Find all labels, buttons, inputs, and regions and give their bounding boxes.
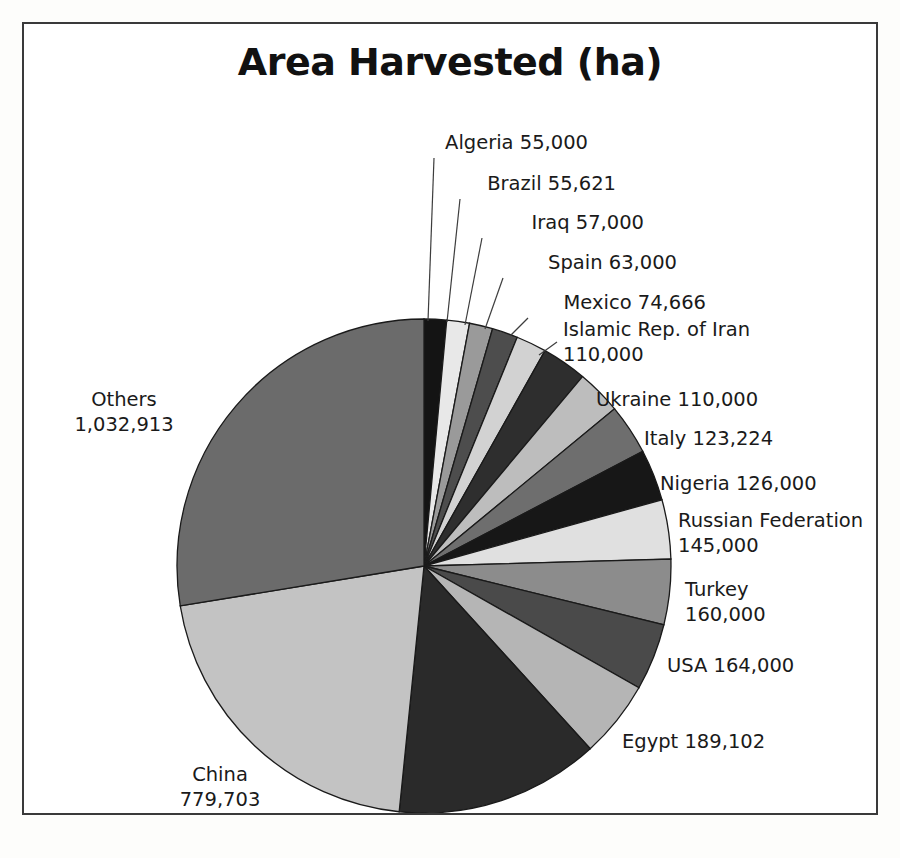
leader-line-algeria [428, 158, 434, 321]
pie-label-mexico: Mexico 74,666 [563, 291, 706, 314]
pie-label-line: Brazil 55,621 [487, 172, 616, 195]
pie-label-usa: USA 164,000 [667, 654, 794, 677]
pie-label-line: 779,703 [180, 788, 261, 811]
pie-label-line: Mexico 74,666 [563, 291, 706, 314]
pie-label-others: Others1,032,913 [74, 388, 173, 436]
pie-label-italy: Italy 123,224 [644, 427, 773, 450]
pie-label-china: China779,703 [180, 763, 261, 811]
pie-label-ukraine: Ukraine 110,000 [596, 388, 758, 411]
leader-line-brazil [447, 199, 460, 322]
pie-label-spain: Spain 63,000 [548, 251, 677, 274]
chart-frame: Area Harvested (ha) Algeria 55,000Brazil… [22, 22, 878, 815]
pie-slice-others [177, 319, 424, 606]
pie-label-algeria: Algeria 55,000 [445, 131, 588, 154]
pie-label-india: India 500,000 [492, 811, 627, 813]
leader-line-iraq [465, 238, 482, 325]
pie-label-line: India 500,000 [492, 811, 627, 813]
pie-label-line: 110,000 [563, 343, 644, 366]
leader-line-spain [485, 278, 503, 329]
pie-label-nigeria: Nigeria 126,000 [660, 472, 817, 495]
pie-label-line: 1,032,913 [74, 413, 173, 436]
pie-label-line: Iraq 57,000 [531, 211, 644, 234]
pie-label-line: Ukraine 110,000 [596, 388, 758, 411]
pie-label-line: Egypt 189,102 [622, 730, 765, 753]
pie-label-line: Nigeria 126,000 [660, 472, 817, 495]
leader-line-mexico [510, 318, 528, 336]
pie-label-line: 145,000 [678, 534, 759, 557]
pie-label-line: Others [91, 388, 157, 411]
pie-label-line: Turkey [684, 578, 748, 601]
pie-label-line: Spain 63,000 [548, 251, 677, 274]
pie-label-line: Italy 123,224 [644, 427, 773, 450]
pie-label-line: China [192, 763, 248, 786]
pie-label-line: 160,000 [685, 603, 766, 626]
pie-chart: Algeria 55,000Brazil 55,621Iraq 57,000Sp… [24, 24, 876, 813]
pie-label-egypt: Egypt 189,102 [622, 730, 765, 753]
pie-label-line: Islamic Rep. of Iran [563, 318, 750, 341]
pie-label-brazil: Brazil 55,621 [487, 172, 616, 195]
pie-label-turkey: Turkey160,000 [684, 578, 766, 626]
pie-label-line: Russian Federation [678, 509, 863, 532]
pie-label-line: USA 164,000 [667, 654, 794, 677]
pie-label-islamic-rep-of-iran: Islamic Rep. of Iran110,000 [563, 318, 750, 366]
pie-label-line: Algeria 55,000 [445, 131, 588, 154]
pie-label-russian-federation: Russian Federation145,000 [678, 509, 863, 557]
pie-label-iraq: Iraq 57,000 [531, 211, 644, 234]
